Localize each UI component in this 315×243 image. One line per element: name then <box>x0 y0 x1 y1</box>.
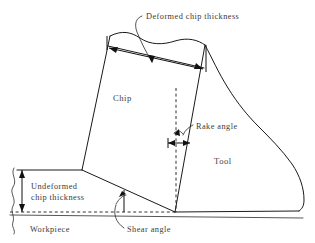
tool-label: Tool <box>214 156 232 166</box>
orthogonal-cutting-diagram: Deformed chip thickness Chip Rake angle … <box>0 0 315 243</box>
rake-angle-leader <box>183 125 193 135</box>
break-line-icon <box>12 168 15 234</box>
undeformed-thickness-arrow-bottom <box>19 204 25 212</box>
undeformed-chip-thickness-label-line2: chip thickness <box>31 193 85 202</box>
tool-bottom-edge <box>175 211 299 212</box>
rake-angle-arrow-left <box>168 140 175 146</box>
rake-angle-label: Rake angle <box>196 122 238 131</box>
deformed-chip-thickness-label: Deformed chip thickness <box>146 12 239 21</box>
shear-angle-label: Shear angle <box>127 225 171 234</box>
undeformed-thickness-arrow-top <box>19 170 25 178</box>
chip-inner-top-edge <box>108 46 204 68</box>
undeformed-chip-thickness-label-line1: Undeformed <box>31 182 78 191</box>
deformed-thickness-leader-arrowhead <box>148 55 155 63</box>
machining-diagram-container: Deformed chip thickness Chip Rake angle … <box>0 0 315 243</box>
deformed-thickness-dimension-line <box>109 48 203 69</box>
rake-angle-arrow-right <box>183 140 190 146</box>
shear-plane-line <box>82 170 175 212</box>
chip-top-free-edge <box>110 32 205 45</box>
deformed-thickness-arrow-left <box>109 47 118 53</box>
workpiece-label: Workpiece <box>30 225 70 234</box>
chip-label: Chip <box>113 93 132 103</box>
shear-angle-arrowhead <box>119 191 126 197</box>
chip-left-edge <box>82 36 110 170</box>
machined-surface-line <box>10 215 303 218</box>
